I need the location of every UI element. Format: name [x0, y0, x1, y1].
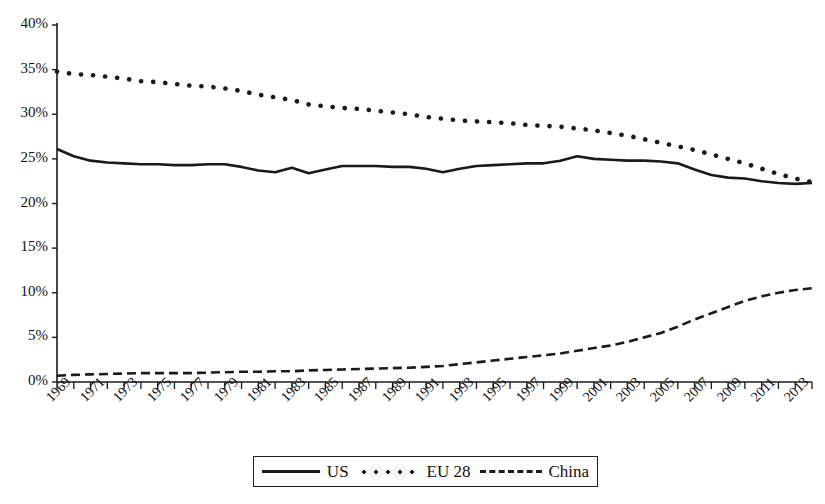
legend-label: US [327, 462, 349, 482]
y-axis-tick-label: 20% [2, 194, 48, 211]
y-axis-tick-label: 5% [2, 327, 48, 344]
legend-swatch-dotted-icon [358, 470, 420, 474]
y-axis-tick-label: 0% [2, 372, 48, 389]
legend-swatch-solid-icon [262, 470, 320, 473]
chart-legend: USEU 28China [253, 456, 598, 487]
legend-item-eu-28: EU 28 [358, 462, 471, 482]
legend-swatch-dashed-icon [480, 470, 542, 473]
legend-item-china: China [480, 462, 590, 482]
y-axis-tick-label: 35% [2, 60, 48, 77]
y-axis-tick-label: 15% [2, 238, 48, 255]
chart-plot-svg [0, 0, 825, 504]
chart-axes [57, 23, 812, 382]
y-axis-tick-label: 25% [2, 149, 48, 166]
legend-item-us: US [262, 462, 349, 482]
legend-label: China [549, 462, 590, 482]
chart-container: 0%5%10%15%20%25%30%35%40% 19691971197319… [0, 0, 825, 504]
y-axis-tick-label: 30% [2, 104, 48, 121]
series-line-us [57, 149, 812, 184]
y-axis-tick-label: 40% [2, 15, 48, 32]
y-axis-tick-label: 10% [2, 283, 48, 300]
legend-label: EU 28 [427, 462, 471, 482]
series-line-china [57, 288, 812, 375]
